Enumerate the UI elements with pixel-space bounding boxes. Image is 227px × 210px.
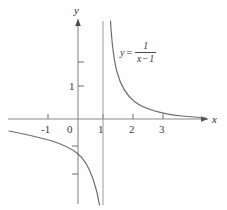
y-axis-label: y: [74, 5, 79, 16]
fraction-numerator: 1: [140, 41, 151, 52]
equation-fraction: 1 x−1: [135, 41, 156, 64]
denominator-variable: x: [137, 53, 141, 64]
x-axis: [8, 116, 208, 122]
x-tick-label-3: 3: [159, 124, 165, 135]
equation-equals-sign: =: [126, 48, 132, 58]
y-axis: [75, 19, 81, 204]
x-tick-label-0: 0: [67, 124, 73, 135]
curve-right-branch: [111, 21, 207, 118]
function-graph-figure: -1 0 1 2 3 1 y x y = 1 x−1: [0, 0, 227, 210]
equation-lhs: y: [120, 48, 124, 58]
fraction-denominator: x−1: [135, 53, 156, 64]
x-axis-ticks: [48, 114, 163, 119]
y-tick-label-1: 1: [69, 81, 75, 92]
x-tick-label-neg1: -1: [41, 124, 50, 135]
plot-canvas: [0, 0, 227, 210]
x-tick-label-1: 1: [98, 124, 104, 135]
equation-annotation: y = 1 x−1: [120, 41, 156, 64]
x-axis-label: x: [212, 114, 217, 125]
x-tick-label-2: 2: [129, 124, 135, 135]
denominator-constant: 1: [149, 53, 154, 64]
curve-left-branch: [9, 131, 100, 205]
